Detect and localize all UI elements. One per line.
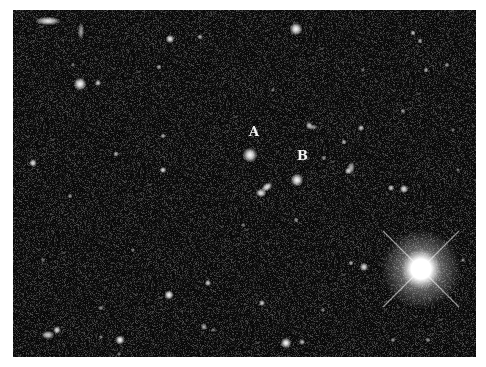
astronomical-image: A B xyxy=(13,10,476,357)
label-b: B xyxy=(297,149,308,162)
star-field xyxy=(13,10,476,357)
label-a: A xyxy=(249,125,259,138)
